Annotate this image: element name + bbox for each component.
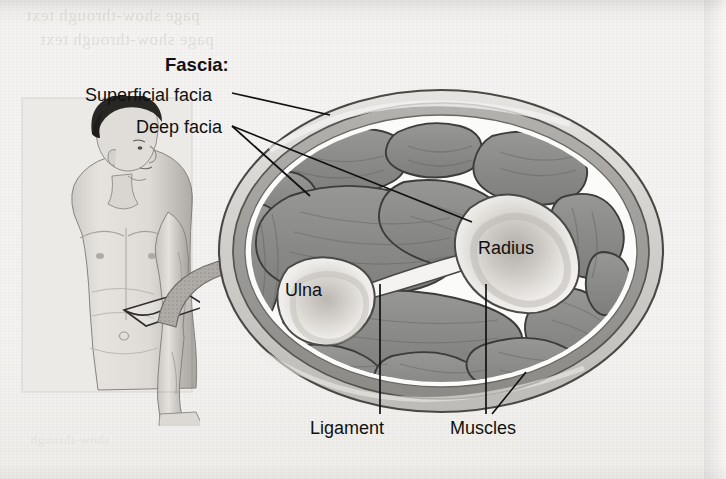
page-edge-top <box>0 0 726 12</box>
page-edge-right <box>704 0 726 479</box>
page-edge-bottom <box>0 463 726 479</box>
muscles-label: Muscles <box>450 419 516 437</box>
anatomy-illustration <box>0 0 726 479</box>
radius-label: Radius <box>478 239 534 257</box>
body-figure <box>22 93 206 459</box>
fascia-heading-label: Fascia: <box>165 56 229 75</box>
forearm-cross-section <box>219 90 663 414</box>
figure-page: page show-through text page show-through… <box>0 0 726 479</box>
deep-fascia-label: Deep facia <box>136 118 222 136</box>
ulna-label: Ulna <box>285 281 322 299</box>
superficial-fascia-label: Superficial facia <box>85 86 212 104</box>
ligament-label: Ligament <box>310 419 384 437</box>
leader-superficial-fascia <box>232 93 330 115</box>
